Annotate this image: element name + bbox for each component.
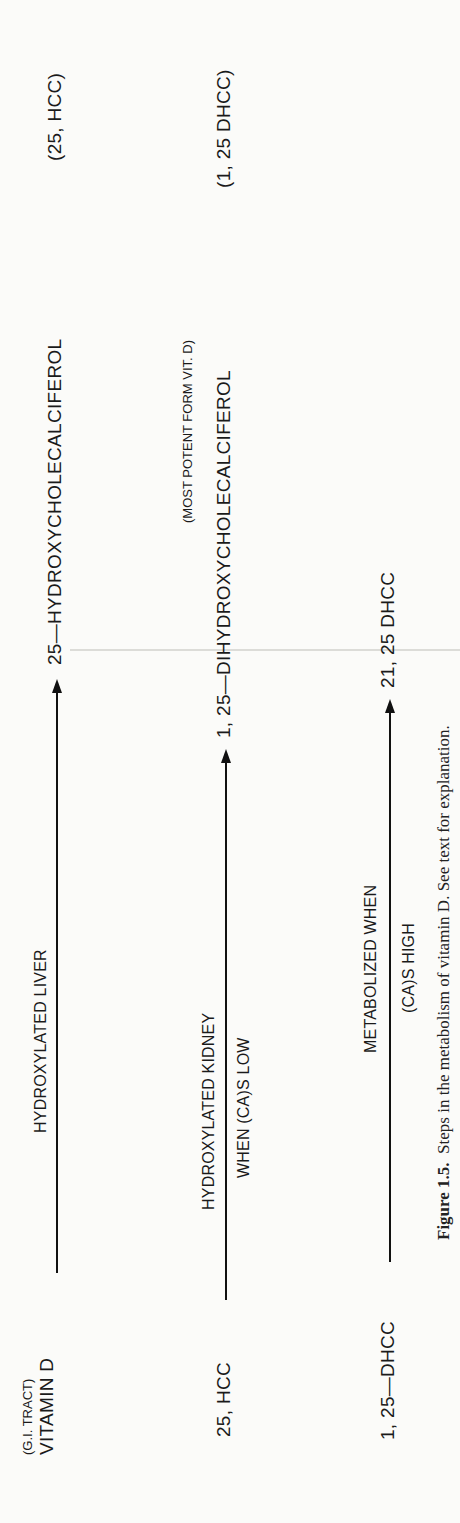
- caption-label: Figure 1.5.: [434, 1162, 453, 1240]
- row1-product: 25—HYDROXYCHOLECALCIFEROL: [44, 339, 66, 665]
- row1-arrow-head-icon: [52, 679, 62, 693]
- row2-process-top: HYDROXYLATED KIDNEY: [200, 1013, 218, 1210]
- row3-source: 1, 25—DHCC: [377, 1321, 399, 1440]
- figure-caption: Figure 1.5. Steps in the metabolism of v…: [434, 725, 454, 1240]
- row2-product-abbrev: (1, 25 DHCC): [213, 69, 235, 188]
- row2-product-note: (MOST POTENT FORM VIT. D): [180, 340, 195, 523]
- row1-product-abbrev: (25, HCC): [44, 73, 66, 161]
- row3-process-top: METABOLIZED WHEN: [362, 885, 380, 1053]
- row1-process-top: HYDROXYLATED LIVER: [32, 949, 50, 1133]
- row3-arrow-line: [389, 710, 391, 1262]
- row3-process-bottom: (CA)S HIGH: [400, 923, 418, 1013]
- row2-arrow-line: [225, 760, 227, 1300]
- row3-product: 21, 25 DHCC: [377, 572, 399, 688]
- row1-source: VITAMIN D: [36, 1358, 58, 1455]
- figure-page: (G.I. TRACT) VITAMIN D HYDROXYLATED LIVE…: [0, 0, 460, 1523]
- caption-text: Steps in the metabolism of vitamin D. Se…: [434, 725, 453, 1154]
- row2-arrow-head-icon: [221, 749, 231, 763]
- row1-source-note: (G.I. TRACT): [20, 1379, 35, 1455]
- row1-arrow-line: [56, 689, 58, 1273]
- row2-product: 1, 25—DIHYDROXYCHOLECALCIFEROL: [213, 370, 235, 738]
- row2-source: 25, HCC: [213, 1362, 235, 1437]
- scan-artifact-line: [70, 649, 460, 651]
- row2-process-bottom: WHEN (CA)S LOW: [235, 1037, 253, 1178]
- row3-arrow-head-icon: [385, 699, 395, 713]
